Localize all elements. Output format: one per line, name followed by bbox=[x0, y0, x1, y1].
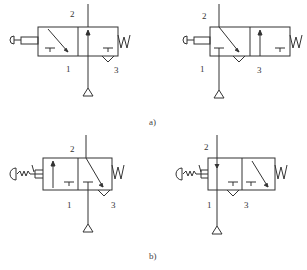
port-label-3: 3 bbox=[257, 66, 262, 75]
port-label-2: 2 bbox=[204, 143, 209, 152]
port-label-2: 2 bbox=[70, 10, 75, 19]
pressure-source-icon bbox=[214, 90, 224, 98]
pressure-source-icon bbox=[83, 224, 93, 232]
caption-b: b) bbox=[149, 252, 157, 261]
spring-icon bbox=[290, 35, 302, 48]
port-label-3: 3 bbox=[114, 66, 119, 75]
port-label-1: 1 bbox=[66, 65, 71, 74]
spring-icon bbox=[275, 165, 287, 179]
port-label-1: 1 bbox=[67, 201, 72, 210]
plunger-actuator-icon bbox=[183, 36, 210, 44]
valve-b-left bbox=[10, 135, 124, 232]
exhaust-icon bbox=[227, 190, 239, 196]
valve-diagram-canvas bbox=[0, 0, 307, 270]
mushroom-button-detent-icon bbox=[10, 165, 43, 180]
exhaust-icon bbox=[233, 56, 245, 62]
spring-icon bbox=[112, 165, 124, 179]
caption-a: a) bbox=[149, 118, 156, 127]
exhaust-icon bbox=[98, 190, 110, 196]
port-label-3: 3 bbox=[244, 201, 249, 210]
mushroom-button-detent-icon bbox=[176, 165, 208, 180]
pressure-source-icon bbox=[83, 88, 93, 96]
valve-symbols-figure: 2 1 3 2 1 3 2 1 3 2 1 3 a) b) bbox=[0, 0, 307, 270]
port-label-3: 3 bbox=[111, 201, 116, 210]
plunger-actuator-icon bbox=[10, 36, 38, 44]
port-label-1: 1 bbox=[200, 65, 205, 74]
port-label-2: 2 bbox=[202, 12, 207, 21]
pressure-source-icon bbox=[212, 226, 222, 234]
exhaust-icon bbox=[102, 56, 114, 62]
port-label-2: 2 bbox=[70, 145, 75, 154]
port-label-1: 1 bbox=[207, 201, 212, 210]
spring-icon bbox=[118, 35, 130, 48]
valve-a-right bbox=[183, 4, 302, 98]
valve-b-right bbox=[176, 135, 287, 234]
